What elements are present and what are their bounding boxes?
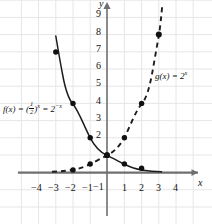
x-tick-neg3: −3 (48, 182, 59, 193)
x-axis-arrow (192, 169, 199, 176)
x-axis-label: x (198, 177, 202, 188)
graph-canvas: 9 8 7 6 5 4 3 2 −1 −4 −3 −2 −1 1 2 3 4 y… (0, 0, 212, 224)
x-tick-neg2: −2 (65, 182, 76, 193)
x-tick-neg1: −1 (82, 182, 93, 193)
y-tick-6: 6 (96, 60, 101, 71)
g-label-text: g(x) = 2 (155, 71, 185, 81)
f-label-prefix: f(x) = ( (3, 104, 29, 114)
x-tick-neg4: −4 (31, 182, 42, 193)
y-tick-9: 9 (96, 8, 101, 19)
function-label-f: f(x) = (12)x = 2−x (3, 101, 62, 115)
y-axis-label: y (99, 0, 103, 9)
x-tick-3: 3 (156, 182, 161, 193)
x-tick-2: 2 (139, 182, 144, 193)
data-point-markers-g (70, 32, 162, 173)
y-tick-8: 8 (96, 26, 101, 37)
y-tick-5: 5 (96, 77, 101, 88)
x-tick-1: 1 (122, 182, 127, 193)
y-tick-2: 2 (96, 129, 101, 140)
x-tick-4: 4 (173, 182, 178, 193)
f-label-exponent-negx: −x (55, 103, 62, 109)
y-axis-arrow (103, 2, 110, 9)
y-tick-7: 7 (96, 43, 101, 54)
y-tick-neg1: −1 (93, 181, 104, 192)
y-tick-3: 3 (96, 112, 101, 123)
g-label-exponent-x: x (185, 70, 188, 76)
function-label-g: g(x) = 2x (155, 70, 187, 81)
x-axis (18, 169, 198, 176)
f-label-equals-two: = 2 (40, 104, 55, 114)
y-tick-4: 4 (96, 95, 101, 106)
